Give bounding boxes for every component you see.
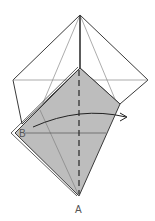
label-b: B [19, 128, 26, 139]
label-a: A [75, 204, 82, 215]
diagram-canvas: B A [0, 0, 155, 221]
origami-diagram: B A [0, 0, 155, 221]
